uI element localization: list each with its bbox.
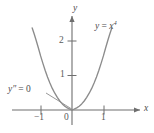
inflection-value: 0 — [26, 84, 31, 94]
inflection-equals: = — [16, 84, 26, 94]
x-tick-label-0: 0 — [64, 113, 69, 123]
y-tick-label-1: 1 — [60, 70, 65, 80]
curve-eq-equals: = — [99, 21, 109, 31]
x-axis-label: x — [144, 104, 148, 114]
x-tick-label-1: 1 — [101, 113, 106, 123]
x-tick-label-minus-1: −1 — [34, 113, 44, 123]
y-axis-label: y — [73, 4, 77, 14]
function-graph-figure: y x 2 1 −1 0 1 y = x4 y″ = 0 — [0, 0, 154, 133]
x-axis-arrowhead — [134, 107, 140, 112]
plot-canvas — [0, 0, 154, 133]
curve-eq-exponent: 4 — [114, 19, 117, 26]
y-axis-arrowhead — [69, 16, 74, 22]
y-tick-label-2: 2 — [59, 36, 64, 46]
inflection-annotation-label: y″ = 0 — [8, 85, 31, 95]
curve-equation-label: y = x4 — [95, 20, 117, 32]
